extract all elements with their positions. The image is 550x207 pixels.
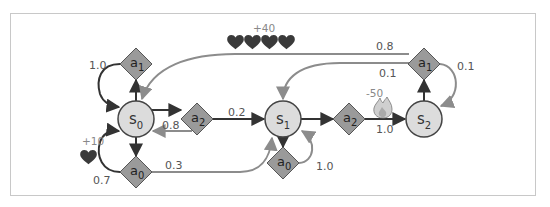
prob-s1a2-s2: 1.0 <box>376 123 394 136</box>
state-s0: s0 <box>118 101 154 137</box>
prob-s0a0-s1: 0.3 <box>165 159 183 172</box>
action-s2-a1: a1 <box>408 48 440 80</box>
action-s1-a0: a0 <box>267 147 299 179</box>
reward-value: +10 <box>82 135 104 147</box>
reward-s1a2: -50 <box>366 87 392 118</box>
prob-s0a2-s1: 0.2 <box>228 106 246 119</box>
fire-icon <box>374 97 392 118</box>
state-s1: s1 <box>265 101 301 137</box>
prob-s2a1-s0: 0.8 <box>376 40 394 53</box>
prob-s2a1-s2: 0.1 <box>457 60 475 73</box>
reward-value: +40 <box>253 22 275 34</box>
reward-value: -50 <box>366 87 383 99</box>
mdp-diagram: s0 s1 s2 a1 a2 a0 a2 a0 a1 1.0 0.8 0.2 0… <box>0 0 550 207</box>
heart-icon <box>278 35 295 49</box>
prob-s0a2-s0: 0.8 <box>162 119 180 132</box>
action-s0-a1: a1 <box>120 48 152 80</box>
state-s2: s2 <box>406 101 442 137</box>
heart-icon <box>227 35 244 49</box>
prob-s2a1-s1: 0.1 <box>379 67 397 80</box>
reward-s2a1-s0: +40 <box>227 22 295 49</box>
heart-icon <box>244 35 261 49</box>
prob-s0a0-s0: 0.7 <box>93 174 111 187</box>
prob-s0a1-s0: 1.0 <box>89 59 107 72</box>
prob-s1a0-s1: 1.0 <box>316 160 334 173</box>
action-s0-a0: a0 <box>120 156 152 188</box>
action-s1-a2: a2 <box>333 103 365 135</box>
heart-icon <box>80 150 97 164</box>
heart-icon <box>261 35 278 49</box>
